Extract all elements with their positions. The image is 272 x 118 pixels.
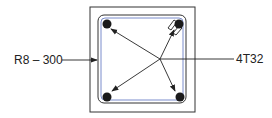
bar-top-right	[175, 20, 184, 29]
main-bars-label: 4T32	[236, 52, 263, 66]
bar-bottom-right	[176, 93, 185, 102]
stirrup-label: R8 – 300	[14, 53, 63, 67]
bar-bottom-left	[103, 93, 112, 102]
bar-top-left	[103, 20, 112, 29]
bar-leader-arrows	[111, 29, 175, 91]
